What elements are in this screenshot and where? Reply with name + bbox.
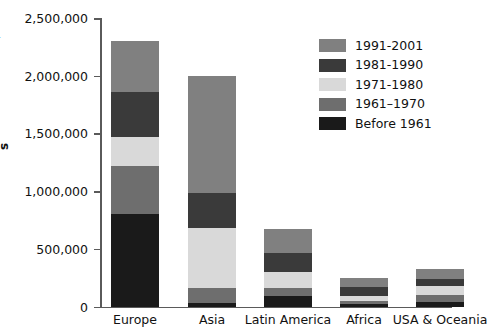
bar-usa-oceania[interactable] xyxy=(416,269,464,306)
x-axis-line xyxy=(100,307,452,309)
y-axis-tick-mark xyxy=(94,249,100,251)
legend-item-label: 1971-1980 xyxy=(355,79,423,92)
bar-segment xyxy=(264,253,312,271)
x-axis-tick-label: Latin America xyxy=(245,312,331,327)
bar-segment xyxy=(188,303,236,306)
bar-latin-america[interactable] xyxy=(264,229,312,307)
y-axis-tick-label: 2,000,000 xyxy=(10,68,88,83)
bar-segment xyxy=(416,302,464,307)
bar-segment xyxy=(264,296,312,306)
bar-africa[interactable] xyxy=(340,278,388,307)
y-axis-tick-mark xyxy=(94,76,100,78)
bar-asia[interactable] xyxy=(188,76,236,307)
bar-segment xyxy=(111,166,159,214)
legend-color-swatch xyxy=(319,98,346,111)
bar-segment xyxy=(111,214,159,306)
legend-item-label: 1961–1970 xyxy=(355,98,425,111)
y-axis-tick-mark xyxy=(94,133,100,135)
bar-segment xyxy=(264,229,312,254)
chart-legend: 1991-20011981-19901971-19801961–1970Befo… xyxy=(319,36,449,134)
bar-segment xyxy=(188,288,236,303)
legend-item[interactable]: 1981-1990 xyxy=(319,56,449,76)
bar-segment xyxy=(340,287,388,296)
bar-segment xyxy=(416,269,464,279)
bar-segment xyxy=(416,286,464,295)
y-axis-tick-mark xyxy=(94,307,100,309)
legend-item[interactable]: Before 1961 xyxy=(319,114,449,134)
legend-color-swatch xyxy=(319,117,346,130)
legend-color-swatch xyxy=(319,78,346,91)
y-axis-line xyxy=(100,18,102,308)
y-axis-tick-mark xyxy=(94,191,100,193)
legend-item-label: 1991-2001 xyxy=(355,40,423,53)
bar-segment xyxy=(340,304,388,307)
bar-segment xyxy=(264,272,312,288)
legend-color-swatch xyxy=(319,39,346,52)
bar-segment xyxy=(416,295,464,302)
x-axis-tick-label: Asia xyxy=(199,312,225,327)
bar-segment xyxy=(111,41,159,92)
y-axis-tick-mark xyxy=(94,18,100,20)
bar-segment xyxy=(188,193,236,228)
x-axis-tick-label: Europe xyxy=(113,312,157,327)
y-axis-tick-label: 1,500,000 xyxy=(10,126,88,141)
legend-color-swatch xyxy=(319,59,346,72)
bar-segment xyxy=(111,137,159,166)
y-axis-tick-label: 0 xyxy=(10,299,88,314)
x-axis-tick-label: Africa xyxy=(346,312,382,327)
y-axis-tick-label: 500,000 xyxy=(10,241,88,256)
legend-item-label: 1981-1990 xyxy=(355,59,423,72)
bar-segment xyxy=(264,288,312,296)
legend-item[interactable]: 1971-1980 xyxy=(319,75,449,95)
bar-europe[interactable] xyxy=(111,41,159,306)
bar-segment xyxy=(188,76,236,194)
legend-item-label: Before 1961 xyxy=(355,118,432,131)
bar-segment xyxy=(111,92,159,137)
x-axis-tick-label: USA & Oceania xyxy=(393,312,487,327)
y-axis-tick-label: 1,000,000 xyxy=(10,184,88,199)
legend-item[interactable]: 1961–1970 xyxy=(319,95,449,115)
bar-segment xyxy=(188,228,236,288)
y-axis-tick-labels: 0500,0001,000,0001,500,0002,000,0002,500… xyxy=(0,0,88,330)
bar-segment xyxy=(340,278,388,287)
bar-segment xyxy=(416,279,464,287)
legend-item[interactable]: 1991-2001 xyxy=(319,36,449,56)
y-axis-tick-label: 2,500,000 xyxy=(10,11,88,26)
